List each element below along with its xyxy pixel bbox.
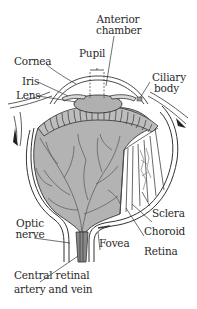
label-pupil: Pupil bbox=[79, 48, 105, 59]
fovea-marker bbox=[98, 226, 110, 228]
label-lens: Lens bbox=[16, 90, 41, 101]
optic-nerve bbox=[76, 232, 88, 262]
muscle-tip-left bbox=[13, 128, 18, 146]
label-optic-nerve: Optic nerve bbox=[14, 218, 46, 240]
label-choroid: Choroid bbox=[144, 226, 185, 237]
label-central-retinal: Central retinal artery and vein bbox=[14, 270, 92, 295]
label-optic-nerve-line2: nerve bbox=[14, 229, 46, 240]
label-anterior-chamber-line2: chamber bbox=[96, 25, 140, 36]
label-central-retinal-line2: artery and vein bbox=[14, 284, 92, 295]
label-iris: Iris bbox=[22, 76, 39, 87]
ciliary-body-marker bbox=[137, 97, 142, 101]
label-central-retinal-line1: Central retinal bbox=[14, 270, 92, 281]
pupil-bracket bbox=[90, 68, 104, 70]
label-ciliary-body-line2: body bbox=[152, 83, 186, 94]
label-fovea: Fovea bbox=[99, 238, 129, 249]
label-ciliary-body: Ciliary body bbox=[152, 72, 186, 94]
label-cornea: Cornea bbox=[14, 56, 51, 67]
label-anterior-chamber: Anterior chamber bbox=[96, 14, 140, 36]
label-retina: Retina bbox=[144, 246, 178, 257]
label-sclera: Sclera bbox=[152, 208, 185, 219]
